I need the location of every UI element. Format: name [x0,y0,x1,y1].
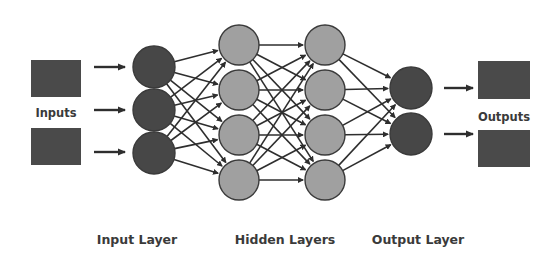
connection-edges [167,45,396,180]
output-node [390,113,432,155]
hidden-1-node [219,160,259,200]
input-box [31,128,81,165]
input-node [133,46,175,88]
connection-edge [174,159,218,173]
connection-edge [343,54,391,78]
inputs-label: Inputs [35,106,76,120]
hidden-1-node [219,115,259,155]
input-node [133,132,175,174]
output-box [478,61,530,99]
connection-edge [345,89,388,90]
hidden-1-node [219,25,259,65]
layer-label-input: Input Layer [97,232,178,247]
outputs-label: Outputs [478,110,530,124]
hidden-2-node [305,25,345,65]
hidden-2-node [305,115,345,155]
hidden-2-node [305,70,345,110]
hidden-1-node [219,70,259,110]
layer-label-hidden: Hidden Layers [235,232,336,247]
hidden-2-node [305,160,345,200]
connection-edge [343,145,391,171]
connection-edge [174,51,217,62]
input-node [133,89,175,131]
output-box [478,130,530,167]
neural-network-diagram: Inputs Outputs Input Layer Hidden Layers… [0,0,556,254]
layer-label-output: Output Layer [372,232,465,247]
input-box [31,60,81,97]
output-node [390,67,432,109]
